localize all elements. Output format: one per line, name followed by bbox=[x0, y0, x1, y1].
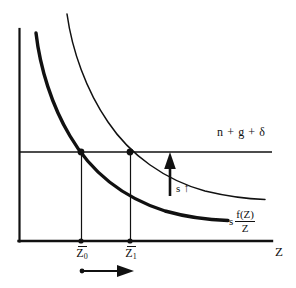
z1-letter: Z bbox=[125, 246, 132, 260]
arrow-up-icon: ↑ bbox=[180, 181, 189, 195]
diagram-canvas bbox=[0, 0, 296, 288]
investment-curve-fraction: f(Z) Z bbox=[235, 209, 255, 235]
z0-axis-point bbox=[78, 238, 83, 243]
vertical-shift-arrow bbox=[164, 152, 176, 196]
initial-investment-curve bbox=[36, 33, 228, 221]
investment-curve-denominator: Z bbox=[235, 223, 255, 235]
z0-tick-label: Z0 bbox=[72, 246, 92, 259]
z1-axis-point bbox=[127, 238, 132, 243]
new-steady-state-point bbox=[127, 149, 134, 156]
solow-diagram: n + g + δ s↑ s f(Z) Z Z0 Z1 Z bbox=[0, 0, 296, 288]
z0-letter: Z bbox=[76, 246, 83, 260]
horizontal-shift-arrow bbox=[80, 265, 134, 277]
depreciation-line-label: n + g + δ bbox=[217, 126, 266, 138]
z0-subscript: 0 bbox=[84, 252, 88, 261]
z1-tick-label: Z1 bbox=[121, 246, 141, 259]
z0-text: Z0 bbox=[72, 247, 92, 259]
initial-steady-state-point bbox=[78, 149, 85, 156]
investment-curve-label: s f(Z) Z bbox=[229, 209, 255, 235]
x-axis-label: Z bbox=[275, 245, 283, 258]
investment-curve-label-prefix: s bbox=[229, 216, 233, 227]
saving-increase-label: s↑ bbox=[176, 182, 189, 194]
investment-curve-numerator: f(Z) bbox=[235, 209, 255, 221]
z1-subscript: 1 bbox=[133, 252, 137, 261]
z1-text: Z1 bbox=[121, 247, 141, 259]
